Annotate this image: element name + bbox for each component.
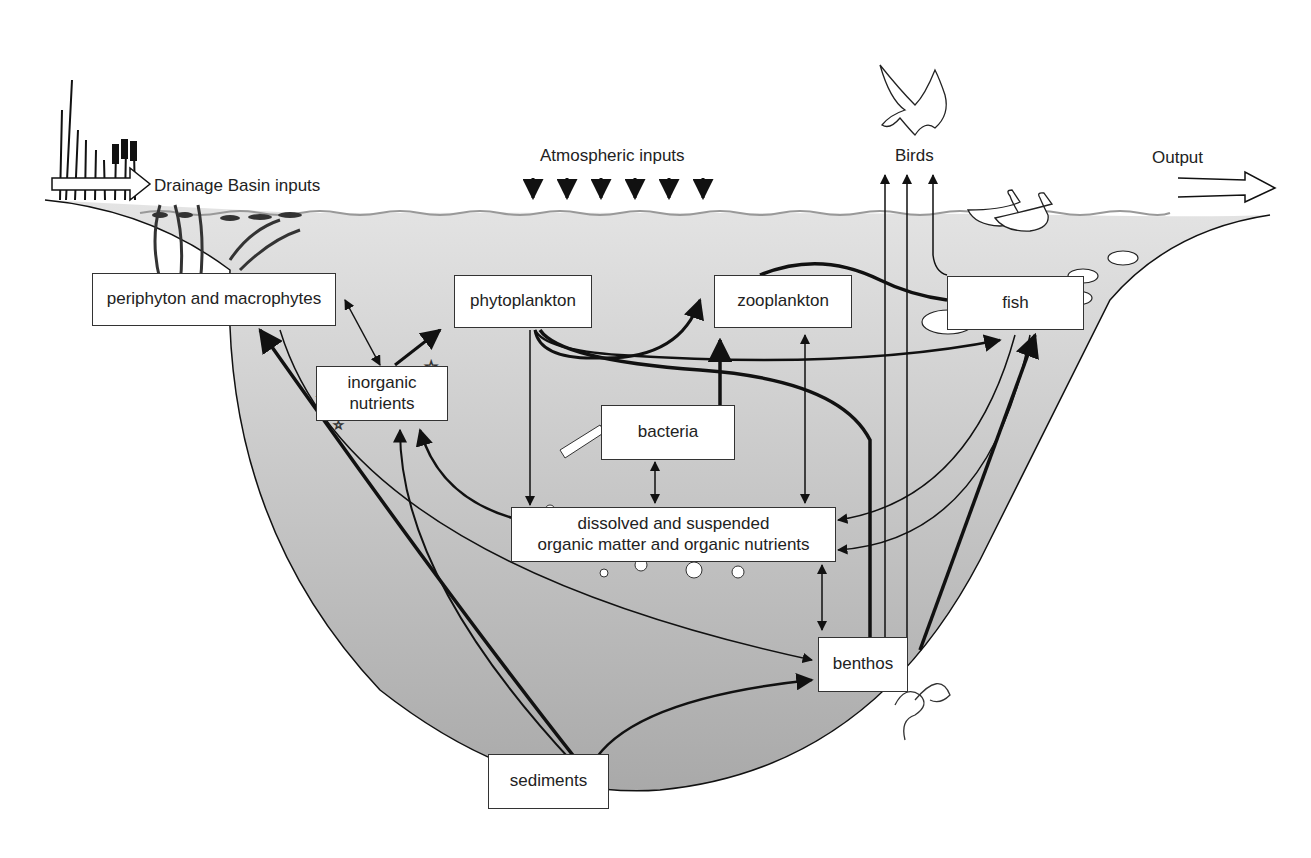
node-dissolved-organic-matter: dissolved and suspended organic matter a…: [511, 507, 836, 562]
node-benthos: benthos: [818, 637, 908, 692]
benthos-worms-icon: [895, 684, 950, 740]
node-sediments: sediments: [488, 754, 609, 809]
node-periphyton-macrophytes: periphyton and macrophytes: [92, 273, 336, 326]
dom-line2: organic matter and organic nutrients: [537, 535, 809, 555]
eagle-icon: [880, 65, 946, 135]
atmospheric-inputs-label: Atmospheric inputs: [540, 146, 685, 166]
node-bacteria: bacteria: [601, 405, 735, 460]
inorganic-nutrients-line1: inorganic: [348, 373, 417, 393]
node-fish: fish: [947, 276, 1084, 330]
dom-line1: dissolved and suspended: [578, 514, 770, 534]
node-zooplankton: zooplankton: [714, 275, 852, 328]
inorganic-nutrients-line2: nutrients: [349, 394, 414, 414]
node-phytoplankton: phytoplankton: [454, 275, 592, 328]
output-arrow-icon: [1178, 172, 1275, 202]
drainage-basin-inputs-label: Drainage Basin inputs: [154, 176, 320, 196]
birds-label: Birds: [895, 146, 934, 166]
node-inorganic-nutrients: inorganic nutrients: [316, 366, 448, 421]
atmospheric-input-arrows-icon: [533, 178, 703, 198]
output-label: Output: [1152, 148, 1203, 168]
